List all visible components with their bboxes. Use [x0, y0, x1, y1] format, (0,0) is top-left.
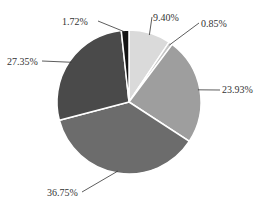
label-slice-5: 27.35% — [7, 56, 38, 67]
label-slice-4: 36.75% — [47, 187, 78, 198]
label-slice-6: 1.72% — [62, 16, 88, 27]
label-slice-3: 23.93% — [222, 84, 253, 95]
leader-line — [170, 23, 199, 45]
leader-line — [82, 171, 118, 192]
leader-line — [98, 21, 125, 32]
leader-line — [149, 17, 152, 35]
leader-line — [42, 61, 71, 62]
pie-chart: 9.40% 0.85% 23.93% 36.75% 27.35% 1.72% — [0, 0, 264, 206]
pie-slices — [57, 30, 201, 174]
label-slice-2: 0.85% — [201, 18, 227, 29]
label-slice-1: 9.40% — [153, 12, 179, 23]
